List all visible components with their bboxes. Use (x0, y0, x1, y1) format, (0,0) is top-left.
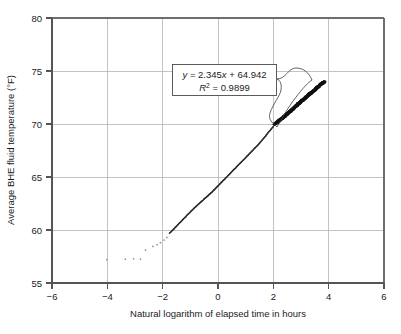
equation-intercept: + 64.942 (227, 69, 267, 80)
data-point (152, 246, 154, 248)
x-axis-tick-labels: −6 −4 −2 0 2 4 6 (47, 291, 387, 302)
data-series (106, 237, 168, 261)
y-tick-label: 80 (31, 13, 42, 24)
data-series (169, 126, 274, 234)
x-tick-label: −6 (47, 291, 58, 302)
data-point (160, 242, 162, 244)
data-point (163, 239, 165, 241)
data-series (273, 80, 327, 126)
x-tick-label: 2 (271, 291, 276, 302)
data-point (273, 126, 275, 128)
y-tick-label: 75 (31, 66, 42, 77)
data-point (145, 249, 147, 251)
data-point (166, 237, 168, 239)
data-point (323, 80, 326, 83)
y-axis-ticks (46, 18, 52, 283)
y-axis-tick-labels: 55 60 65 70 75 80 (31, 13, 42, 289)
data-point (106, 259, 108, 261)
data-point (133, 258, 135, 260)
x-tick-label: −4 (102, 291, 113, 302)
gridlines (52, 18, 384, 283)
y-tick-label: 70 (31, 119, 42, 130)
y-tick-label: 65 (31, 172, 42, 183)
equation-annotation: y = 2.345x + 64.942 R2 = 0.9899 (173, 65, 277, 96)
scatter-plot: 55 60 65 70 75 80 −6 −4 −2 0 2 4 6 Natur… (0, 0, 401, 334)
x-axis-title: Natural logarithm of elapsed time in hou… (130, 308, 306, 319)
y-tick-label: 60 (31, 225, 42, 236)
y-tick-label: 55 (31, 278, 42, 289)
data-point (140, 258, 142, 260)
y-axis-title: Average BHE fluid temperature (°F) (5, 75, 16, 225)
data-point (124, 258, 126, 260)
x-tick-label: 6 (381, 291, 386, 302)
equation-line-1: y = 2.345x + 64.942 (182, 69, 267, 80)
x-axis-ticks (52, 283, 384, 289)
data-series-layer (106, 80, 327, 260)
x-tick-label: 0 (215, 291, 220, 302)
equation-operator: = 2.345 (187, 69, 222, 80)
x-tick-label: −2 (157, 291, 168, 302)
data-point (156, 244, 158, 246)
chart-figure: 55 60 65 70 75 80 −6 −4 −2 0 2 4 6 Natur… (0, 0, 401, 334)
x-tick-label: 4 (326, 291, 331, 302)
r-squared-value: = 0.9899 (210, 82, 250, 93)
